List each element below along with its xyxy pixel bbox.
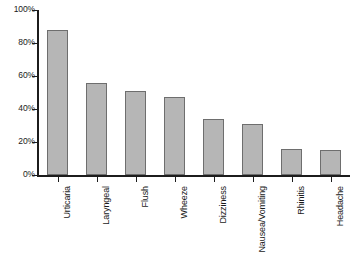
y-axis-tick-mark (32, 76, 37, 77)
bar (86, 83, 107, 175)
x-axis-category-label: Flush (140, 186, 150, 208)
x-axis-tick-mark (214, 176, 215, 182)
bar (320, 150, 341, 175)
y-axis-tick-label: 60% (18, 70, 35, 80)
y-axis-tick-label: 0% (23, 169, 35, 179)
x-axis-tick-mark (97, 176, 98, 182)
bar-chart: 0%20%40%60%80%100% UrticariaLaryngealFlu… (0, 0, 361, 266)
x-axis-category-label: Wheeze (179, 186, 189, 218)
y-axis-tick-label: 40% (18, 103, 35, 113)
y-axis-tick-mark (32, 142, 37, 143)
bar (281, 149, 302, 175)
x-axis-tick-mark (175, 176, 176, 182)
x-axis-category-label: Laryngeal (101, 186, 111, 225)
bar (125, 91, 146, 175)
plot-area (38, 10, 350, 175)
x-axis-tick-mark (58, 176, 59, 182)
x-axis-line (37, 175, 350, 177)
x-axis-tick-mark (253, 176, 254, 182)
x-axis-tick-mark (292, 176, 293, 182)
y-axis-tick-mark (32, 10, 37, 11)
x-axis-category-label: Nausea/Vomiting (257, 186, 267, 253)
x-axis-tick-mark (331, 176, 332, 182)
x-axis-tick-mark (136, 176, 137, 182)
bar (47, 30, 68, 175)
y-axis-tick-mark (32, 175, 37, 176)
y-axis-tick-mark (32, 43, 37, 44)
bar (242, 124, 263, 175)
y-axis-tick-mark (32, 109, 37, 110)
y-axis-tick-label: 100% (14, 4, 35, 14)
x-axis-category-label: Urticaria (62, 186, 72, 219)
bar (164, 97, 185, 175)
bar (203, 119, 224, 175)
x-axis-category-label: Rhinitis (296, 186, 306, 215)
y-axis-tick-label: 80% (18, 37, 35, 47)
y-axis-tick-label: 20% (18, 136, 35, 146)
x-axis-category-label: Dizziness (218, 186, 228, 224)
x-axis-category-label: Headache (335, 186, 345, 226)
